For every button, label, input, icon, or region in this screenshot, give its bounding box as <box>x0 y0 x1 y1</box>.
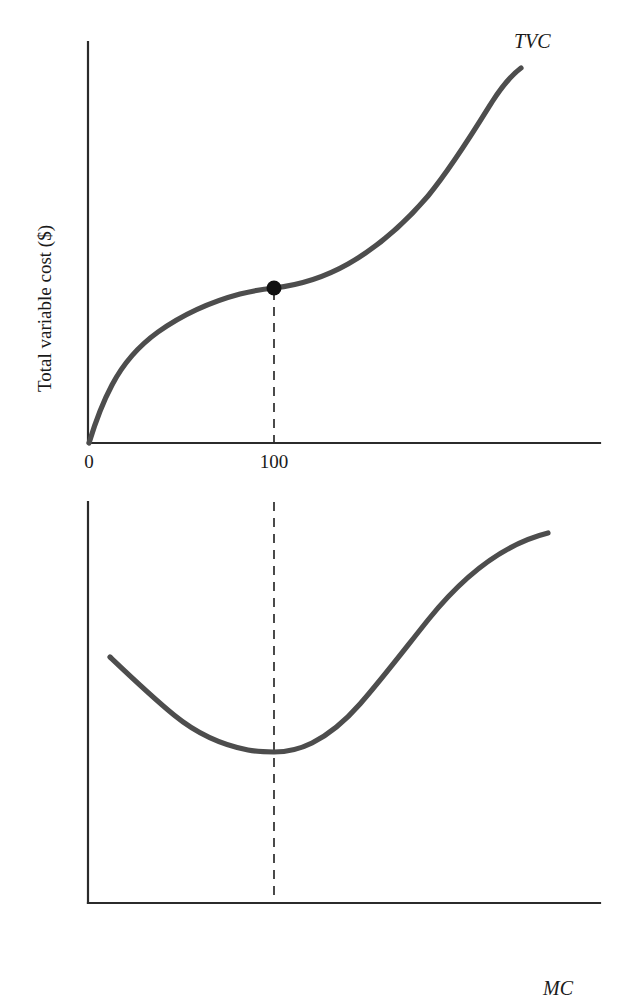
mc-curve-label: MC <box>543 977 573 998</box>
tvc-xtick-0: 0 <box>80 452 98 471</box>
tvc-curve-label: TVC <box>514 30 551 53</box>
panel-marginal-cost: MC Marginal cost ($) 0 100 Units of outp… <box>0 480 629 998</box>
mc-curve <box>110 533 548 752</box>
tvc-curve <box>89 68 521 443</box>
tvc-xtick-100: 100 <box>246 452 302 471</box>
tvc-plot-area <box>0 0 629 500</box>
mc-plot-area <box>0 480 629 998</box>
tvc-y-axis-title: Total variable cost ($) <box>34 225 56 392</box>
figure-cost-curves: TVC Total variable cost ($) 0 100 MC Mar… <box>0 0 629 998</box>
panel-total-variable-cost: TVC Total variable cost ($) 0 100 <box>0 0 629 500</box>
tvc-inflection-point-marker <box>267 281 282 296</box>
